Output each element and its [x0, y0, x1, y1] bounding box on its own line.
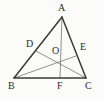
segment-AF — [60, 17, 62, 78]
vertex-label-B: B — [8, 81, 15, 91]
vertex-label-C: C — [85, 81, 92, 91]
point-label-O: O — [52, 46, 59, 56]
point-label-E: E — [80, 42, 86, 52]
point-label-D: D — [26, 39, 33, 49]
point-label-F: F — [57, 81, 63, 91]
cevian-lines — [14, 17, 86, 78]
triangle-sides — [14, 17, 86, 78]
vertex-label-A: A — [58, 3, 65, 13]
geometry-figure: A B C D E F O — [0, 0, 104, 99]
